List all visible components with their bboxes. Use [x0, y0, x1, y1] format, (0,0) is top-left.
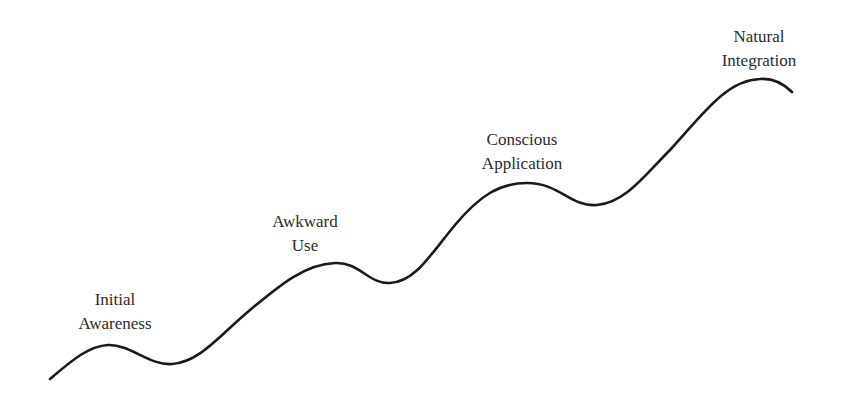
stage-label-line2: Awareness: [78, 312, 151, 336]
growth-curve: [50, 79, 792, 379]
stage-label-conscious-application: Conscious Application: [482, 128, 562, 176]
stage-label-line1: Conscious: [482, 128, 562, 152]
stage-label-line2: Integration: [722, 49, 797, 73]
stage-label-line2: Application: [482, 152, 562, 176]
stage-label-line1: Initial: [78, 288, 151, 312]
stage-label-natural-integration: Natural Integration: [722, 25, 797, 73]
stage-label-initial-awareness: Initial Awareness: [78, 288, 151, 336]
stage-label-awkward-use: Awkward Use: [272, 210, 337, 258]
stage-label-line1: Natural: [722, 25, 797, 49]
stage-label-line2: Use: [272, 234, 337, 258]
stage-label-line1: Awkward: [272, 210, 337, 234]
